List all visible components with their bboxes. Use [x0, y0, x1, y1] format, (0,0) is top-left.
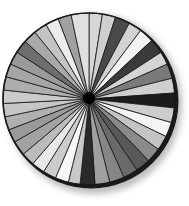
wedge-wheel [0, 0, 189, 206]
wheel-hub [83, 92, 95, 104]
wedge-wheel-figure [0, 0, 189, 206]
